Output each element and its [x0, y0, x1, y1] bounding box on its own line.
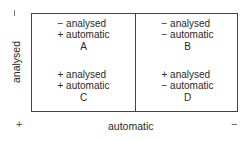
- y-axis-minus-marker: [14, 10, 15, 16]
- cell-a-line2: + automatic: [58, 29, 110, 40]
- cell-a-line1: − analysed: [58, 18, 110, 29]
- x-axis-minus-marker: −: [231, 118, 237, 130]
- x-axis-plus-marker: +: [16, 118, 22, 130]
- cell-a: − analysed + automatic A: [32, 18, 135, 52]
- cell-a-letter: A: [32, 41, 135, 52]
- cell-d: + analysed − automatic D: [136, 69, 239, 103]
- y-axis-label: analysed: [10, 32, 22, 92]
- cell-d-line2: − automatic: [162, 80, 214, 91]
- cell-d-letter: D: [136, 92, 239, 103]
- cell-c-line2: + automatic: [58, 80, 110, 91]
- cell-c-letter: C: [32, 92, 135, 103]
- quadrant-grid: − analysed + automatic A − analysed − au…: [31, 13, 238, 112]
- cell-c: + analysed + automatic C: [32, 69, 135, 103]
- cell-b: − analysed − automatic B: [136, 18, 239, 52]
- cell-b-line1: − analysed: [162, 18, 214, 29]
- cell-c-line1: + analysed: [58, 69, 110, 80]
- x-axis-label: automatic: [108, 120, 154, 132]
- cell-b-letter: B: [136, 41, 239, 52]
- cell-d-line1: + analysed: [162, 69, 214, 80]
- cell-b-line2: − automatic: [162, 29, 214, 40]
